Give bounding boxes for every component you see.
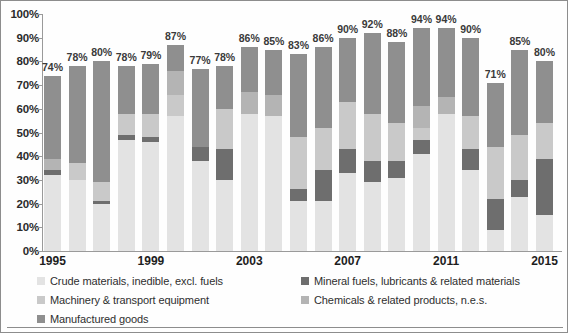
bar-group[interactable]: 71% xyxy=(487,14,504,251)
bar-segment[interactable] xyxy=(388,123,405,161)
bar-segment[interactable] xyxy=(44,76,61,159)
bar-group[interactable]: 86% xyxy=(315,14,332,251)
bar-segment[interactable] xyxy=(216,149,233,180)
bar-group[interactable]: 87% xyxy=(167,14,184,251)
bar-segment[interactable] xyxy=(388,161,405,178)
bar-segment[interactable] xyxy=(241,47,258,92)
bar-segment[interactable] xyxy=(167,71,184,95)
bar-segment[interactable] xyxy=(438,114,455,251)
bar-segment[interactable] xyxy=(413,106,430,127)
bar-segment[interactable] xyxy=(388,178,405,251)
bar-group[interactable]: 86% xyxy=(241,14,258,251)
bar-group[interactable]: 90% xyxy=(462,14,479,251)
bar-group[interactable]: 90% xyxy=(339,14,356,251)
bar-segment[interactable] xyxy=(118,114,135,135)
bar-group[interactable]: 77% xyxy=(192,14,209,251)
bar-segment[interactable] xyxy=(413,28,430,106)
bar-segment[interactable] xyxy=(241,92,258,113)
bar-stack[interactable] xyxy=(216,66,233,251)
bar-stack[interactable] xyxy=(93,61,110,251)
bar-stack[interactable] xyxy=(364,33,381,251)
bar-segment[interactable] xyxy=(388,42,405,123)
bar-group[interactable]: 94% xyxy=(438,14,455,251)
bar-stack[interactable] xyxy=(487,83,504,251)
bar-stack[interactable] xyxy=(44,76,61,251)
bar-segment[interactable] xyxy=(413,128,430,140)
bar-segment[interactable] xyxy=(438,97,455,114)
bar-segment[interactable] xyxy=(167,95,184,116)
bar-group[interactable]: 80% xyxy=(93,14,110,251)
bar-stack[interactable] xyxy=(241,47,258,251)
bar-segment[interactable] xyxy=(290,189,307,201)
bar-segment[interactable] xyxy=(93,61,110,182)
bar-segment[interactable] xyxy=(93,204,110,251)
bar-stack[interactable] xyxy=(265,50,282,251)
bar-segment[interactable] xyxy=(511,180,528,197)
bar-segment[interactable] xyxy=(315,201,332,251)
bar-segment[interactable] xyxy=(241,114,258,251)
bar-segment[interactable] xyxy=(192,161,209,251)
bar-segment[interactable] xyxy=(364,114,381,161)
bar-segment[interactable] xyxy=(364,182,381,251)
bar-segment[interactable] xyxy=(487,83,504,147)
bar-stack[interactable] xyxy=(511,50,528,251)
bar-stack[interactable] xyxy=(413,28,430,251)
bar-group[interactable]: 74% xyxy=(44,14,61,251)
bar-segment[interactable] xyxy=(487,199,504,230)
bar-segment[interactable] xyxy=(536,215,553,251)
bar-group[interactable]: 92% xyxy=(364,14,381,251)
bar-segment[interactable] xyxy=(315,47,332,128)
bar-segment[interactable] xyxy=(290,137,307,189)
bar-stack[interactable] xyxy=(118,66,135,251)
bar-segment[interactable] xyxy=(192,147,209,161)
bar-segment[interactable] xyxy=(339,102,356,149)
bar-segment[interactable] xyxy=(216,180,233,251)
bar-segment[interactable] xyxy=(265,50,282,95)
bar-segment[interactable] xyxy=(339,173,356,251)
bar-segment[interactable] xyxy=(265,116,282,251)
bar-segment[interactable] xyxy=(339,149,356,173)
bar-stack[interactable] xyxy=(142,64,159,251)
bar-segment[interactable] xyxy=(536,123,553,159)
bar-stack[interactable] xyxy=(69,66,86,251)
bar-segment[interactable] xyxy=(142,142,159,251)
bar-stack[interactable] xyxy=(315,47,332,251)
legend-item-manufactured[interactable]: Manufactured goods xyxy=(37,313,149,325)
bar-segment[interactable] xyxy=(142,64,159,114)
bar-segment[interactable] xyxy=(69,163,86,180)
bar-segment[interactable] xyxy=(216,66,233,109)
bar-group[interactable]: 88% xyxy=(388,14,405,251)
bar-segment[interactable] xyxy=(167,116,184,251)
bar-segment[interactable] xyxy=(315,128,332,171)
legend-item-chemicals[interactable]: Chemicals & related products, n.e.s. xyxy=(301,294,487,306)
bar-stack[interactable] xyxy=(388,42,405,251)
bar-stack[interactable] xyxy=(536,61,553,251)
bar-segment[interactable] xyxy=(69,180,86,251)
bar-group[interactable]: 80% xyxy=(536,14,553,251)
bar-segment[interactable] xyxy=(118,140,135,251)
bar-segment[interactable] xyxy=(69,66,86,163)
legend-item-crude[interactable]: Crude materials, inedible, excl. fuels xyxy=(37,275,223,287)
bar-segment[interactable] xyxy=(339,38,356,102)
bar-segment[interactable] xyxy=(462,149,479,170)
bar-segment[interactable] xyxy=(511,50,528,135)
bar-group[interactable]: 94% xyxy=(413,14,430,251)
bar-segment[interactable] xyxy=(315,170,332,201)
bar-segment[interactable] xyxy=(44,159,61,171)
bar-segment[interactable] xyxy=(290,201,307,251)
bar-segment[interactable] xyxy=(192,69,209,147)
bar-segment[interactable] xyxy=(536,159,553,216)
bar-segment[interactable] xyxy=(438,28,455,97)
bar-segment[interactable] xyxy=(290,54,307,137)
bar-group[interactable]: 79% xyxy=(142,14,159,251)
bar-group[interactable]: 83% xyxy=(290,14,307,251)
bar-segment[interactable] xyxy=(413,140,430,154)
bar-segment[interactable] xyxy=(142,114,159,138)
bar-segment[interactable] xyxy=(93,182,110,201)
bar-segment[interactable] xyxy=(487,230,504,251)
bar-segment[interactable] xyxy=(536,61,553,123)
bar-segment[interactable] xyxy=(462,116,479,149)
bar-segment[interactable] xyxy=(364,33,381,114)
bar-segment[interactable] xyxy=(265,95,282,116)
bar-segment[interactable] xyxy=(44,175,61,251)
